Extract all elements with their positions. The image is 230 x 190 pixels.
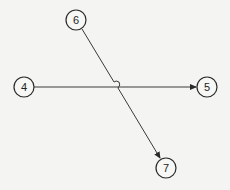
node-6-label: 6 [73,14,79,26]
node-5[interactable]: 5 [197,77,217,97]
edge-6-to-7[interactable] [82,29,160,158]
node-4-label: 4 [21,81,27,93]
node-6[interactable]: 6 [66,10,86,30]
node-5-label: 5 [204,81,210,93]
node-4[interactable]: 4 [14,77,34,97]
node-7-label: 7 [163,162,169,174]
node-7[interactable]: 7 [156,158,176,178]
diagram-canvas: 4 5 6 7 [0,0,230,190]
